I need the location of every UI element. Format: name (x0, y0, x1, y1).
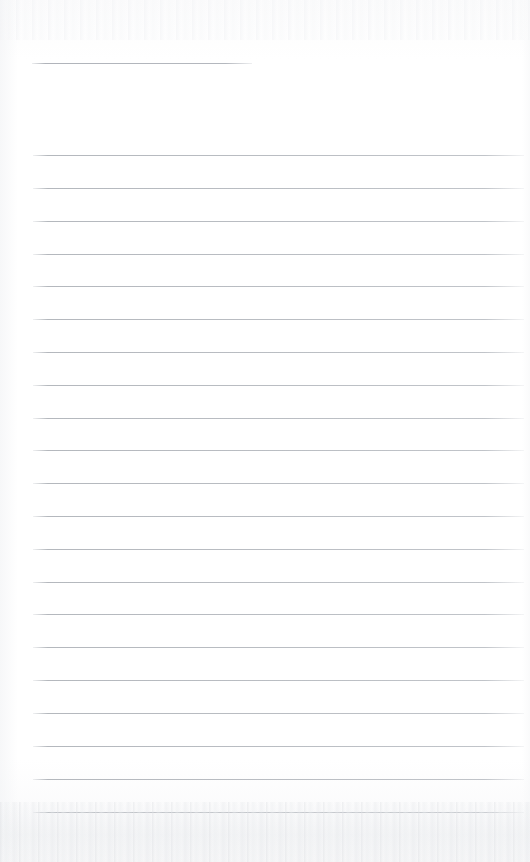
ruled-line (33, 254, 524, 255)
ruled-line (33, 549, 524, 550)
scanned-page (0, 0, 530, 862)
scan-texture-top (0, 0, 530, 40)
scan-texture-bottom (0, 802, 530, 862)
ruled-line (33, 647, 524, 648)
ruled-line (33, 713, 524, 714)
ruled-line (33, 812, 524, 813)
paper-background (0, 0, 530, 862)
ruled-line (33, 221, 524, 222)
ruled-line (33, 779, 524, 780)
ruled-line (33, 614, 524, 615)
ruled-line (33, 516, 524, 517)
ruled-line (33, 680, 524, 681)
header-short-rule (32, 63, 252, 64)
ruled-line (33, 155, 524, 156)
ruled-line (33, 188, 524, 189)
ruled-line (33, 450, 524, 451)
scan-edge-shadow-right (522, 0, 530, 862)
ruled-line (33, 352, 524, 353)
scan-edge-shadow-left (0, 0, 18, 862)
ruled-line (33, 582, 524, 583)
ruled-line (33, 418, 524, 419)
ruled-line (33, 746, 524, 747)
ruled-line (33, 286, 524, 287)
ruled-line (33, 385, 524, 386)
ruled-line (33, 483, 524, 484)
ruled-line (33, 319, 524, 320)
